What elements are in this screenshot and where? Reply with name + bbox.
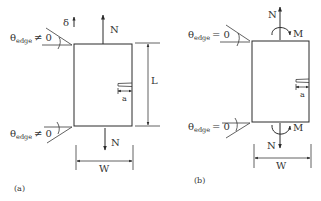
length-label-a: L — [151, 75, 158, 86]
top-angle-label-a: θedge≠ 0 — [10, 32, 52, 45]
top-angle-arc-a — [58, 37, 60, 49]
caption-a: (a) — [14, 184, 25, 193]
width-label-a: W — [99, 163, 110, 174]
bottom-force-label-b: N — [267, 140, 276, 151]
displacement-label-a: δ — [63, 17, 69, 28]
panel-a: a N δ θedge≠ 0 θedge≠ 0 N L W — [10, 15, 160, 193]
top-force-label-b: N — [268, 9, 277, 20]
bottom-angle-label-b: θedge= 0 — [188, 121, 230, 134]
top-angle-label-b: θedge= 0 — [188, 29, 230, 42]
top-force-label-a: N — [110, 24, 119, 35]
crack-a — [118, 83, 132, 87]
bottom-moment-arrow-b — [272, 125, 290, 134]
bottom-angle-arc-b — [235, 118, 237, 131]
bottom-angle-label-a: θedge≠ 0 — [10, 128, 52, 141]
specimen-b — [252, 41, 309, 122]
bottom-force-label-a: N — [111, 137, 120, 148]
caption-b: (b) — [194, 176, 205, 185]
top-moment-arrow-b — [272, 28, 290, 36]
crack-label-a: a — [122, 94, 127, 103]
fracture-specimen-diagram: a N δ θedge≠ 0 θedge≠ 0 N L W — [0, 0, 321, 201]
bottom-moment-label-b: M — [293, 122, 303, 133]
top-moment-label-b: M — [293, 28, 303, 39]
width-label-b: W — [276, 160, 287, 171]
top-angle-arc-b — [237, 33, 239, 46]
bottom-angle-arc-a — [57, 122, 59, 134]
specimen-a — [74, 44, 132, 126]
crack-b — [296, 79, 309, 83]
panel-b: a N M θedge= 0 θedge= 0 M N W (b) — [188, 7, 311, 185]
crack-label-b: a — [300, 90, 305, 99]
